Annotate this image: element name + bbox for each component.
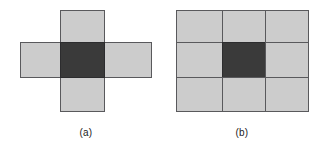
panel-a-cell-center: [60, 42, 105, 78]
panel-b-cell-top-center: [222, 10, 266, 43]
panel-b: [176, 10, 309, 112]
panel-a-cell-left: [20, 42, 61, 78]
panel-a-cell-bottom: [60, 77, 105, 112]
panel-a-caption: (a): [46, 127, 126, 138]
panel-a: [20, 10, 152, 112]
panel-b-cell-bottom-center: [222, 77, 266, 112]
panel-b-cell-bottom-right: [265, 77, 309, 112]
panel-b-cell-center: [222, 42, 266, 78]
panel-a-cell-top: [60, 10, 105, 43]
panel-b-caption: (b): [202, 127, 282, 138]
panel-b-cell-middle-right: [265, 42, 309, 78]
figure-canvas: (a) (b): [0, 0, 325, 155]
panel-b-cell-middle-left: [176, 42, 223, 78]
panel-b-cell-top-left: [176, 10, 223, 43]
panel-b-cell-top-right: [265, 10, 309, 43]
panel-b-cell-bottom-left: [176, 77, 223, 112]
panel-a-cell-right: [104, 42, 152, 78]
